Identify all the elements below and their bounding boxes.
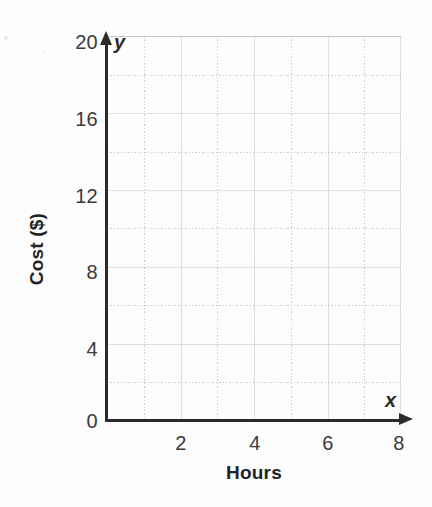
gridline-horizontal xyxy=(107,382,401,383)
x-axis-variable-label: x xyxy=(385,389,396,412)
x-tick-label: 6 xyxy=(306,432,350,455)
x-axis-arrow-icon xyxy=(399,413,413,425)
gridline-vertical xyxy=(144,36,145,420)
x-tick-label: 8 xyxy=(377,432,421,455)
y-axis-title: Cost ($) xyxy=(26,194,48,304)
y-axis-line xyxy=(105,43,108,422)
gridline-horizontal xyxy=(107,305,401,306)
y-tick-label: 0 xyxy=(54,410,98,433)
gridline-vertical-major xyxy=(254,36,255,420)
gridline-vertical xyxy=(217,36,218,420)
y-tick-label: 4 xyxy=(54,338,98,361)
gridline-horizontal xyxy=(107,228,401,229)
y-axis-tick-labels: 20 16 12 8 4 0 xyxy=(48,0,98,507)
y-tick-label: 12 xyxy=(54,185,98,208)
x-axis-tick-labels: 2 4 6 8 xyxy=(0,432,432,462)
y-tick-label: 20 xyxy=(54,31,98,54)
y-axis-arrow-icon xyxy=(100,31,112,45)
x-axis-line xyxy=(105,419,405,422)
x-tick-label: 4 xyxy=(233,432,277,455)
gridline-horizontal xyxy=(107,152,401,153)
plot-grid xyxy=(107,36,401,420)
gridline-horizontal-major xyxy=(107,344,401,345)
x-tick-label: 2 xyxy=(159,432,203,455)
y-tick-label: 16 xyxy=(54,108,98,131)
gridline-vertical xyxy=(364,36,365,420)
gridline-vertical-major xyxy=(328,36,329,420)
y-axis-variable-label: y xyxy=(114,31,125,54)
gridline-horizontal-major xyxy=(107,190,401,191)
gridline-vertical-major xyxy=(181,36,182,420)
y-tick-label: 8 xyxy=(54,261,98,284)
gridline-horizontal xyxy=(107,75,401,76)
chart-canvas: y x 20 16 12 8 4 0 2 4 6 8 Cost ($) Hour… xyxy=(0,0,432,507)
gridline-vertical xyxy=(291,36,292,420)
gridline-horizontal-major xyxy=(107,36,401,37)
gridline-vertical-major xyxy=(400,36,401,420)
x-axis-title: Hours xyxy=(107,462,401,484)
gridline-horizontal-major xyxy=(107,267,401,268)
gridline-horizontal-major xyxy=(107,113,401,114)
